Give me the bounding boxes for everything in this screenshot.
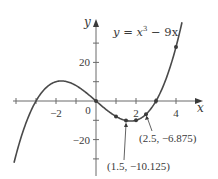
curve-point (134, 118, 138, 122)
curve-point (174, 45, 178, 49)
annotation-1.5: (1.5, −10.125) (107, 123, 170, 174)
y-axis-label: y (83, 15, 91, 29)
x-axis-label: x (197, 101, 204, 115)
annotation-2.5: (2.5, −6.875) (139, 116, 197, 146)
x-tick-label: −2 (50, 107, 62, 119)
arrowhead-icon (124, 123, 128, 128)
x-tick-label: 4 (173, 107, 179, 119)
curve-point (154, 99, 158, 103)
cubic-function-plot: −2024 20−20 x y y = x3 − 9x (2.5, −6.875… (0, 0, 218, 179)
curve-point (94, 99, 98, 103)
annotation-arrow-1.5 (124, 124, 126, 160)
x-tick-label: 0 (85, 104, 91, 116)
y-tick-label: 20 (79, 56, 91, 68)
equation-label: y = x3 − 9x (112, 25, 179, 39)
annotation-label-2.5: (2.5, −6.875) (139, 132, 197, 145)
curve-point (124, 119, 128, 123)
annotation-label-1.5: (1.5, −10.125) (107, 160, 170, 173)
axes (13, 19, 203, 176)
equation-prefix: y = x (112, 25, 143, 39)
curve-point (114, 114, 118, 118)
equation-suffix: − 9x (147, 25, 178, 39)
y-axis-arrow-icon (93, 19, 99, 27)
y-tick-label: −20 (73, 134, 91, 146)
x-tick-label: 2 (133, 107, 139, 119)
curve-point (144, 112, 148, 116)
